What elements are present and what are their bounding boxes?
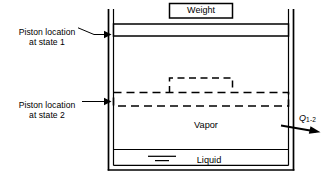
piston-state-2-label-line2: at state 2 xyxy=(4,110,90,120)
piston-state-1 xyxy=(114,24,289,36)
piston-state-1-label-line2: at state 1 xyxy=(4,37,90,47)
heat-transfer-subscript: 1-2 xyxy=(306,116,316,123)
heat-transfer-arrow xyxy=(281,126,321,134)
piston-cylinder-diagram: Piston location at state 1 Piston locati… xyxy=(0,0,333,180)
liquid-level-icon xyxy=(148,156,176,160)
piston-state-2 xyxy=(114,93,289,107)
piston-state-1-label: Piston location at state 1 xyxy=(4,27,90,47)
weight-block-state-2-outline xyxy=(170,78,233,93)
heat-transfer-label: Q1-2 xyxy=(299,113,316,124)
vapor-region-label: Vapor xyxy=(175,120,237,131)
piston-state-2-label-line1: Piston location xyxy=(4,100,90,110)
heat-transfer-arrowhead xyxy=(309,126,321,134)
piston-state-1-label-line1: Piston location xyxy=(4,27,90,37)
liquid-region-label: Liquid xyxy=(178,155,240,166)
weight-label: Weight xyxy=(170,5,232,16)
heat-transfer-symbol: Q xyxy=(299,113,306,123)
piston-state-2-label: Piston location at state 2 xyxy=(4,100,90,120)
